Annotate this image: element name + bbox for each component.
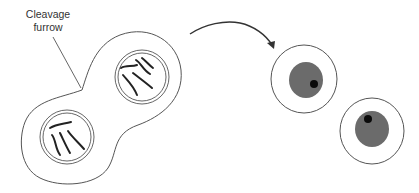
nucleus-lower xyxy=(40,110,94,164)
nucleus-2 xyxy=(355,111,389,147)
cleavage-furrow-label-line1: Cleavage xyxy=(18,8,78,21)
transition-arrow-icon xyxy=(190,22,275,49)
cleavage-furrow-label-line2: furrow xyxy=(18,21,78,34)
nucleus-1 xyxy=(289,62,323,98)
cleavage-furrow-label: Cleavage furrow xyxy=(18,8,78,34)
daughter-cell-2 xyxy=(340,98,404,164)
nucleolus-1 xyxy=(310,80,318,88)
chromosomes-lower xyxy=(50,122,84,155)
nucleolus-2 xyxy=(364,115,372,123)
cleavage-furrow-leader-line xyxy=(53,37,81,88)
nucleus-upper xyxy=(115,50,169,104)
chromosomes-upper xyxy=(121,58,153,95)
daughter-cell-1 xyxy=(271,45,337,113)
